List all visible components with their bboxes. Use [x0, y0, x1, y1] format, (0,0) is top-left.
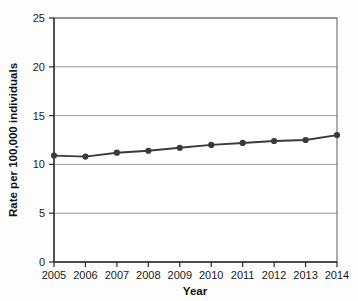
y-tick-label-15: 15	[33, 110, 45, 122]
data-point-2007	[114, 150, 120, 156]
x-tick-label-2013: 2013	[293, 269, 317, 281]
x-tick-label-2011: 2011	[231, 269, 255, 281]
data-point-2009	[177, 145, 183, 151]
data-point-2008	[145, 148, 151, 154]
x-tick-label-2007: 2007	[105, 269, 129, 281]
y-axis-title: Rate per 100,000 individuals	[7, 63, 19, 217]
x-tick-label-2009: 2009	[168, 269, 192, 281]
data-point-2005	[51, 153, 57, 159]
line-chart: 0510152025 20052006200720082009201020112…	[0, 0, 358, 301]
data-point-2010	[208, 142, 214, 148]
x-axis-title: Year	[183, 285, 208, 297]
data-point-2006	[82, 153, 88, 159]
x-tick-label-2005: 2005	[42, 269, 66, 281]
data-point-2013	[302, 137, 308, 143]
x-tick-label-2006: 2006	[73, 269, 97, 281]
x-tick-label-2012: 2012	[262, 269, 286, 281]
x-tick-label-2014: 2014	[325, 269, 349, 281]
data-point-2012	[271, 138, 277, 144]
y-tick-label-5: 5	[39, 207, 45, 219]
y-tick-label-10: 10	[33, 158, 45, 170]
x-tick-label-2008: 2008	[136, 269, 160, 281]
x-tick-label-2010: 2010	[199, 269, 223, 281]
data-point-2014	[334, 132, 340, 138]
y-tick-label-20: 20	[33, 61, 45, 73]
y-tick-label-0: 0	[39, 256, 45, 268]
y-tick-label-25: 25	[33, 12, 45, 24]
data-point-2011	[240, 140, 246, 146]
chart-figure: 0510152025 20052006200720082009201020112…	[0, 0, 358, 301]
